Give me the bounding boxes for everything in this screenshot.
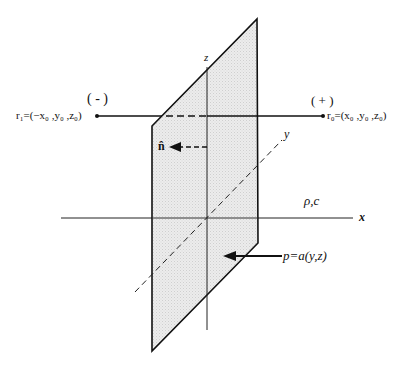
z-axis-label: z	[204, 52, 208, 63]
minus-side-label: ( - )	[87, 92, 108, 106]
normal-vector-label: n̂	[158, 140, 165, 152]
y-axis-label: y	[284, 128, 289, 140]
pressure-label: p=a(y,z)	[283, 249, 327, 262]
r0-coordinate-label: r₀=(x₀ ,y₀ ,z₀)	[327, 110, 386, 121]
plus-side-label: ( + )	[311, 94, 334, 107]
x-axis-label: x	[359, 211, 365, 223]
point-r0	[321, 114, 325, 118]
r1-coordinate-label: r₁=(−x₀ ,y₀ ,z₀)	[16, 110, 82, 121]
diagram-canvas: z y x ( - ) ( + ) r₁=(−x₀ ,y₀ ,z₀) r₀=(x…	[0, 0, 410, 368]
point-r1	[95, 114, 99, 118]
boundary-plane	[152, 19, 258, 351]
medium-label: ρ,c	[304, 194, 319, 207]
